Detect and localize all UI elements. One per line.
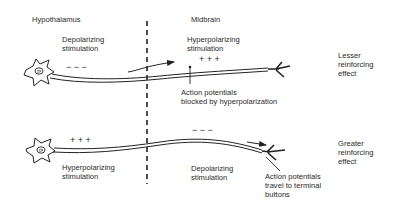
lesser-effect-label: Lesser reinforcing effect	[338, 51, 373, 78]
top-right-charges: + + +	[199, 55, 220, 64]
region-label-hypothalamus: Hypothalamus	[32, 15, 81, 24]
top-propagation-arrow	[128, 62, 174, 72]
bottom-nucleus	[37, 147, 45, 153]
terminal-pointer-line	[266, 157, 280, 171]
top-left-charges: − − −	[66, 63, 87, 72]
bottom-annotation: Action potentials travel to terminal but…	[265, 172, 321, 199]
region-label-midbrain: Midbrain	[191, 15, 220, 24]
top-nucleus	[35, 68, 43, 74]
bottom-right-charges: − − −	[192, 126, 213, 135]
top-right-stimulation: Hyperpolarizing stimulation	[187, 35, 240, 53]
top-annotation: Action potentials blocked by hyperpolari…	[181, 88, 277, 106]
top-terminal-buttons	[268, 62, 290, 77]
top-left-stimulation: Depolarizing stimulation	[62, 35, 104, 53]
bottom-terminal-buttons	[262, 145, 285, 160]
bottom-left-charges: + + +	[70, 136, 91, 145]
bottom-left-stimulation: Hyperpolarizing stimulation	[62, 163, 115, 181]
top-neuron	[24, 59, 290, 86]
bottom-right-stimulation: Depolarizing stimulation	[191, 164, 233, 182]
greater-effect-label: Greater reinforcing effect	[338, 139, 373, 166]
bottom-propagation-arrow	[247, 142, 266, 145]
